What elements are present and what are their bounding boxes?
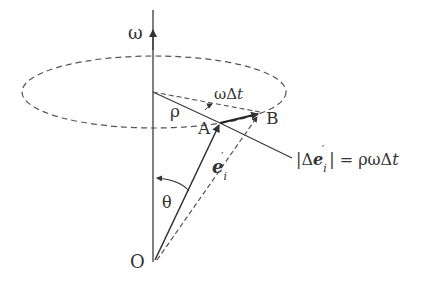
omega-dt-label: ωΔt — [214, 87, 243, 102]
omega-dt-t: t — [237, 85, 243, 103]
equation-leader-line — [220, 123, 292, 158]
point-a-label: A — [198, 120, 210, 137]
e-i-subscript: i — [223, 170, 227, 183]
equation-left: |Δ — [296, 150, 313, 169]
point-b-label: B — [266, 110, 279, 127]
equation-e-prime: ′ — [322, 143, 325, 156]
point-o-label: O — [130, 253, 145, 271]
e-i-label: ei′ — [212, 157, 229, 180]
theta-label: θ — [162, 195, 172, 211]
theta-arc — [157, 178, 189, 191]
omega-axis-label: ω — [128, 24, 143, 42]
equation-label: |Δei′| = ρωΔt — [296, 150, 399, 172]
e-i-prime-vector — [157, 117, 257, 260]
equation-e-sub: i — [323, 162, 327, 175]
omega-dt-arc — [205, 104, 212, 110]
rho-label: ρ — [170, 103, 180, 120]
delta-e-vector — [220, 114, 258, 123]
equation-t: t — [392, 150, 398, 169]
omega-dt-text: ωΔ — [214, 85, 237, 103]
equation-right: | = ρωΔ — [329, 150, 392, 169]
rotation-diagram — [0, 0, 425, 285]
